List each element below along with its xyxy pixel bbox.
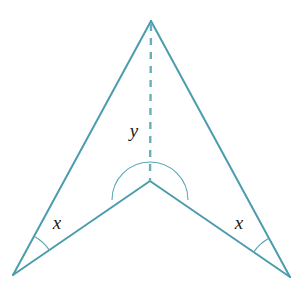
angle-label-right: x [234,212,244,233]
geometry-figure-canvas: x x y [0,0,306,307]
geometry-diagram: x x y [0,0,306,307]
angle-label-reflex: y [128,120,139,141]
angle-label-left: x [52,212,62,233]
figure-background [0,0,306,307]
